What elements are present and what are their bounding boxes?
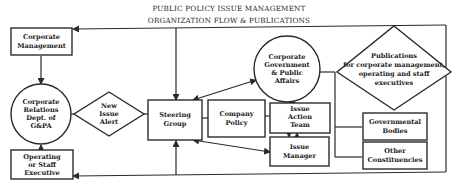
svg-text:Executive: Executive (24, 169, 60, 177)
node-company-policy: Company Policy (208, 100, 265, 137)
svg-text:Issue: Issue (99, 110, 119, 118)
svg-text:Group: Group (164, 120, 187, 128)
svg-text:Issue: Issue (290, 143, 310, 151)
svg-text:Alert: Alert (99, 118, 119, 126)
svg-text:Corporate: Corporate (268, 53, 305, 61)
svg-text:operating and staff: operating and staff (359, 70, 430, 78)
svg-text:Relations: Relations (24, 106, 59, 114)
svg-text:Other: Other (384, 147, 406, 155)
node-corporate-government: Corporate Government & Public Affairs (254, 36, 320, 102)
svg-text:Corporate: Corporate (22, 98, 59, 106)
diagram-title-line-2: ORGANIZATION FLOW & PUBLICATIONS (148, 16, 310, 25)
svg-text:Constituencies: Constituencies (368, 156, 423, 164)
flow-diagram: PUBLIC POLICY ISSUE MANAGEMENT ORGANIZAT… (0, 0, 456, 189)
svg-text:Government: Government (264, 61, 310, 69)
svg-text:or Staff: or Staff (28, 161, 56, 169)
svg-text:Steering: Steering (159, 111, 191, 119)
node-issue-manager: Issue Manager (270, 137, 329, 166)
svg-text:Affairs: Affairs (274, 77, 300, 85)
svg-text:G&PA: G&PA (30, 122, 52, 130)
svg-text:Bodies: Bodies (383, 127, 408, 135)
svg-text:Issue: Issue (290, 105, 310, 113)
svg-text:New: New (101, 102, 117, 110)
node-governmental-bodies: Governmental Bodies (363, 113, 427, 140)
svg-text:Team: Team (290, 121, 310, 129)
node-corporate-management: Corporate Management (11, 28, 72, 55)
svg-text:executives: executives (375, 79, 414, 87)
svg-text:Action: Action (287, 113, 312, 121)
svg-text:Dept. of: Dept. of (26, 114, 57, 122)
node-operating-staff-executive: Operating or Staff Executive (11, 150, 73, 179)
svg-text:Management: Management (17, 42, 66, 50)
node-publications: Publications for corporate management, o… (337, 26, 451, 110)
svg-text:for corporate management,: for corporate management, (343, 61, 445, 69)
diagram-title-line-1: PUBLIC POLICY ISSUE MANAGEMENT (152, 4, 305, 13)
node-other-constituencies: Other Constituencies (363, 142, 427, 169)
svg-text:& Public: & Public (271, 69, 303, 77)
svg-text:Manager: Manager (283, 152, 316, 160)
node-new-issue-alert: New Issue Alert (74, 92, 144, 136)
svg-text:Governmental: Governmental (369, 118, 422, 126)
svg-text:Company: Company (219, 110, 253, 118)
node-issue-action-team: Issue Action Team (270, 103, 330, 133)
svg-text:Operating: Operating (23, 153, 61, 161)
svg-text:Policy: Policy (225, 119, 247, 127)
svg-text:Corporate: Corporate (23, 33, 60, 41)
node-corporate-relations: Corporate Relations Dept. of G&PA (11, 84, 71, 144)
node-steering-group: Steering Group (148, 100, 202, 140)
svg-text:Publications: Publications (371, 52, 417, 60)
